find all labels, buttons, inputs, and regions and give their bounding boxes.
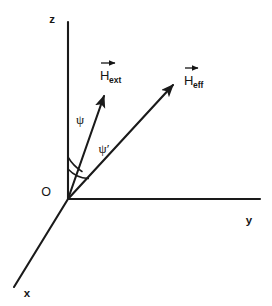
psi-prime-label: ψ′ [99,141,110,156]
x-axis-line [14,199,68,287]
h-eff-vector-line [68,85,173,199]
y-axis-label: y [246,214,253,226]
vector-diagram-figure: z y x O H ext H eff [0,0,272,306]
diagram-canvas: z y x O H ext H eff [0,0,272,306]
h-ext-label-group: H ext [100,63,121,85]
z-axis-label: z [49,13,55,25]
axes-group [14,22,260,287]
h-eff-subscript: eff [193,80,204,90]
x-axis-label: x [24,287,31,299]
h-eff-symbol: H [184,73,193,88]
origin-label: O [41,185,51,199]
h-eff-label-group: H eff [184,68,204,90]
h-ext-vector-group: H ext [68,63,121,199]
psi-label: ψ [76,112,84,127]
h-eff-vector-group: H eff [68,68,204,199]
h-ext-symbol: H [100,68,109,83]
h-ext-subscript: ext [109,75,121,85]
